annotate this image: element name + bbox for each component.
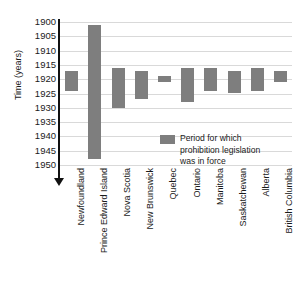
y-axis-tick-label: 1905 [22,31,56,40]
gridline [60,22,292,23]
x-axis-category-labels: NewfoundlandPrince Edward IslandNova Sco… [60,168,292,288]
y-axis-tick-label: 1940 [22,131,56,140]
bar [228,71,241,94]
x-axis-category-label: Alberta [261,168,271,197]
x-axis-category-label: British Columbia [284,168,294,234]
bar [135,71,148,100]
y-axis-tick-labels: 1900190519101915192019251930193519401945… [20,0,56,200]
x-axis-category-label: Ontario [192,168,202,198]
bar [88,25,101,159]
bar [251,68,264,91]
y-axis-tick-label: 1935 [22,117,56,126]
prohibition-legislation-chart: Time (years) 190019051910191519201925193… [0,0,297,291]
bar [112,68,125,108]
y-axis-tick-label: 1920 [22,74,56,83]
y-axis-tick-label: 1900 [22,17,56,26]
x-axis-category-label: Manitoba [215,168,225,205]
x-axis-category-label: Nova Scotia [122,168,132,217]
y-axis-tick-label: 1910 [22,46,56,55]
legend-label-line-2: prohibition legislation [180,145,260,157]
legend-label-line-3: was in force [180,156,260,168]
y-axis-tick-label: 1915 [22,60,56,69]
y-axis-tick-label: 1945 [22,146,56,155]
legend-label: Period for which prohibition legislation… [180,133,260,168]
y-axis-tick-label: 1925 [22,89,56,98]
x-axis-category-label: Prince Edward Island [99,168,109,253]
bar [158,76,171,82]
y-axis-tick-label: 1950 [22,160,56,169]
bar [274,71,287,82]
x-axis-category-label: Newfoundland [76,168,86,226]
x-axis-category-label: New Brunswick [145,168,155,230]
bar [204,68,217,91]
bar [181,68,194,102]
y-axis-tick-label: 1930 [22,103,56,112]
x-axis-category-label: Saskatchewan [238,168,248,227]
chart-legend: Period for which prohibition legislation… [160,133,260,168]
x-axis-category-label: Quebec [168,168,178,200]
legend-color-swatch [160,135,175,144]
bar [65,71,78,91]
legend-label-line-1: Period for which [180,133,260,145]
